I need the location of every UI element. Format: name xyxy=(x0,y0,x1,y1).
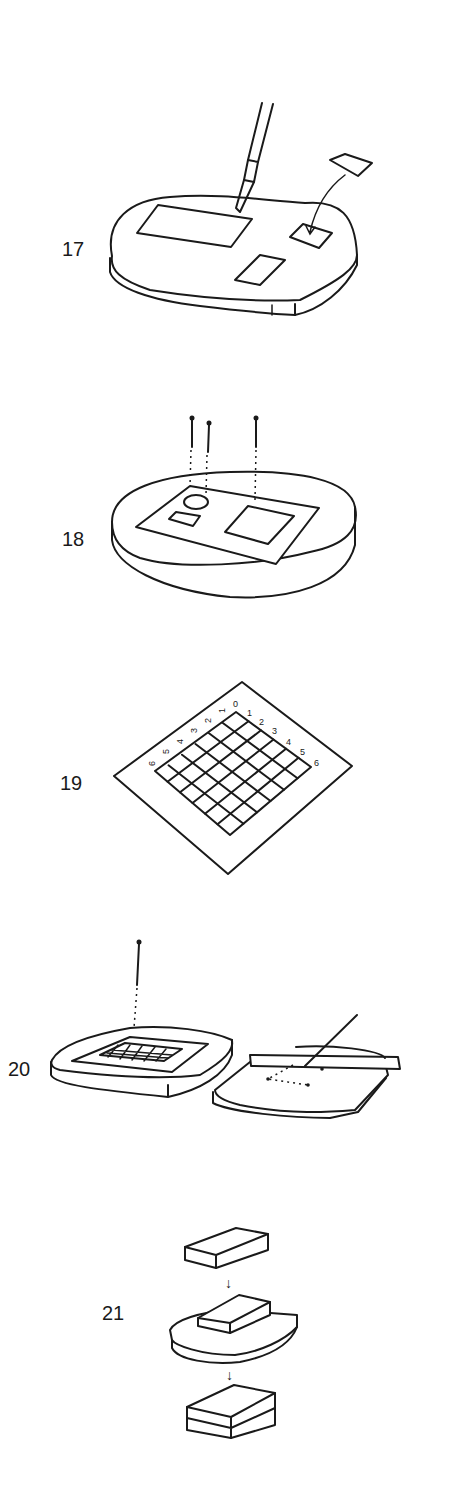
cut-rectangle xyxy=(137,205,252,247)
svg-text:6: 6 xyxy=(314,758,319,768)
svg-text:0: 0 xyxy=(233,699,238,709)
svg-text:3: 3 xyxy=(272,726,277,736)
svg-text:4: 4 xyxy=(175,739,185,744)
svg-text:6: 6 xyxy=(147,761,157,766)
step-21-illustration: ↓ ↓ xyxy=(170,1228,297,1438)
svg-text:1: 1 xyxy=(247,708,252,718)
svg-text:2: 2 xyxy=(203,718,213,723)
svg-text:5: 5 xyxy=(161,749,171,754)
pinned-sheet xyxy=(136,486,319,564)
small-strip xyxy=(235,255,285,285)
procedure-illustration: 0 1 2 3 4 5 6 1 2 3 4 5 6 xyxy=(0,0,474,1505)
svg-text:1: 1 xyxy=(217,708,227,713)
falling-square xyxy=(330,154,372,176)
base-slab-17 xyxy=(110,196,357,315)
pinned-grid-base xyxy=(51,940,232,1098)
step-19-illustration: 0 1 2 3 4 5 6 1 2 3 4 5 6 xyxy=(114,682,352,874)
svg-text:3: 3 xyxy=(189,728,199,733)
circle-cutout xyxy=(184,495,208,509)
pin-icon xyxy=(137,944,139,985)
svg-text:2: 2 xyxy=(259,717,264,727)
step-17-illustration xyxy=(110,103,372,315)
top-block xyxy=(185,1228,268,1268)
down-arrow-icon: ↓ xyxy=(225,1275,232,1291)
svg-text:5: 5 xyxy=(300,747,305,757)
ruler-marking-base xyxy=(213,1015,400,1118)
step-20-illustration xyxy=(51,940,400,1119)
grid-sheet xyxy=(114,682,352,874)
scalpel-icon xyxy=(236,103,273,212)
down-arrow-icon-2: ↓ xyxy=(226,1367,233,1383)
step-18-illustration xyxy=(112,416,356,598)
svg-text:4: 4 xyxy=(286,737,291,747)
block-on-base xyxy=(198,1295,270,1333)
ruler xyxy=(250,1055,400,1069)
